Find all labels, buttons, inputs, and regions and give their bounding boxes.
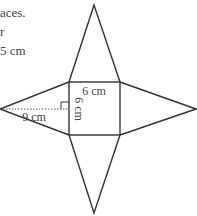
square-vertical-side-label: 6 cm — [72, 97, 86, 121]
right-angle-marker — [61, 102, 69, 109]
right-triangle — [120, 82, 196, 135]
square-side-label: 6 cm — [82, 84, 106, 98]
pyramid-net-diagram: 6 cm 6 cm 9 cm — [0, 0, 197, 216]
bottom-triangle — [69, 135, 120, 213]
slant-height-label: 9 cm — [22, 110, 46, 124]
top-triangle — [69, 5, 120, 82]
